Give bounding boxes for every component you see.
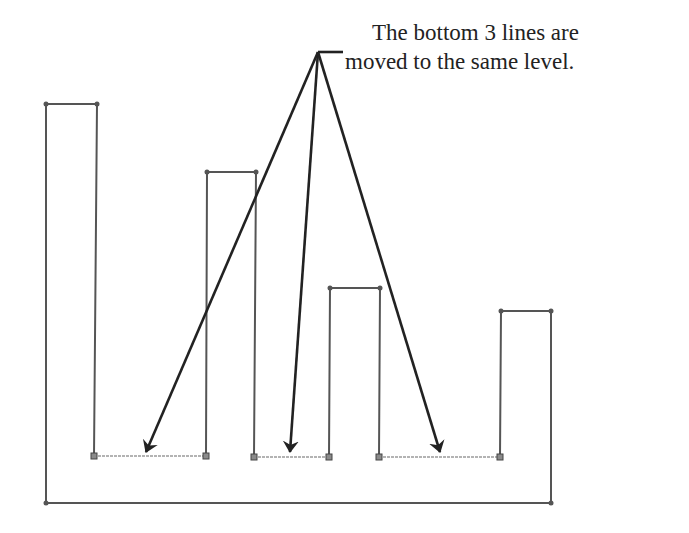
selected-vertex-square[interactable] bbox=[497, 454, 503, 460]
vertex-dots bbox=[44, 102, 554, 506]
selected-vertex-square[interactable] bbox=[203, 453, 209, 459]
outer-profile-line[interactable] bbox=[46, 104, 551, 503]
callout-annotation: The bottom 3 lines are moved to the same… bbox=[345, 18, 685, 76]
callout-arrows bbox=[146, 52, 440, 452]
selected-vertex-square[interactable] bbox=[251, 454, 257, 460]
vertex-point[interactable] bbox=[378, 286, 383, 291]
diagram-canvas: The bottom 3 lines are moved to the same… bbox=[0, 0, 689, 533]
selected-vertex-square[interactable] bbox=[91, 453, 97, 459]
vertex-point[interactable] bbox=[44, 501, 49, 506]
vertex-point[interactable] bbox=[95, 102, 100, 107]
vertex-point[interactable] bbox=[205, 170, 210, 175]
vertex-point[interactable] bbox=[549, 309, 554, 314]
vertex-point[interactable] bbox=[328, 286, 333, 291]
annotation-line-1: The bottom 3 lines are bbox=[345, 18, 685, 47]
profile-outline bbox=[46, 104, 551, 503]
vertex-point[interactable] bbox=[549, 501, 554, 506]
arrow-to-bottom-line-1 bbox=[146, 52, 318, 452]
annotation-line-2: moved to the same level. bbox=[345, 47, 685, 76]
selected-vertex-square[interactable] bbox=[326, 454, 332, 460]
third-tooth-line[interactable] bbox=[329, 288, 380, 457]
vertex-point[interactable] bbox=[44, 102, 49, 107]
moved-bottom-lines bbox=[94, 456, 500, 457]
arrow-to-bottom-line-2 bbox=[290, 52, 318, 452]
vertex-point[interactable] bbox=[254, 170, 259, 175]
vertex-point[interactable] bbox=[499, 309, 504, 314]
sketch-drawing bbox=[0, 0, 689, 533]
selected-vertex-square[interactable] bbox=[376, 454, 382, 460]
